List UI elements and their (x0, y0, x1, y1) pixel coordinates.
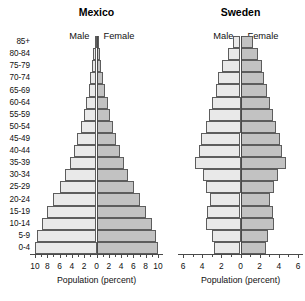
x-axis-minor-tick (212, 254, 213, 257)
x-axis-tick-label: 4 (70, 261, 75, 271)
x-axis-tick (109, 254, 110, 258)
x-axis-tick-label: 6 (57, 261, 62, 271)
bar-female (97, 84, 106, 96)
bar-female (97, 145, 120, 157)
x-axis-minor-tick (152, 254, 153, 257)
bar-female (241, 181, 275, 193)
bar-female (97, 242, 159, 254)
x-axis-tick (84, 254, 85, 258)
center-axis-line (241, 36, 242, 254)
x-axis-tick (146, 254, 147, 258)
x-axis-tick-label: 4 (276, 261, 281, 271)
age-group-label: 10-14 (10, 220, 30, 228)
age-group-label: 75-79 (10, 62, 30, 70)
x-axis-tick (241, 254, 242, 258)
bar-male (89, 84, 97, 96)
x-axis-minor-tick (288, 254, 289, 257)
bar-female (97, 157, 124, 169)
bar-male (206, 121, 241, 133)
age-group-label: 70-74 (10, 74, 30, 82)
bar-female (241, 109, 274, 121)
x-axis-tick-label: 6 (296, 261, 301, 271)
x-axis-tick-label: 6 (181, 261, 186, 271)
age-group-label: 45-49 (10, 135, 30, 143)
x-axis-tick (72, 254, 73, 258)
x-axis-tick-label: 2 (82, 261, 87, 271)
age-group-label: 50-54 (10, 123, 30, 131)
bar-female (97, 218, 152, 230)
x-axis-minor-tick (269, 254, 270, 257)
age-group-label: 35-39 (10, 159, 30, 167)
age-group-label: 65-69 (10, 87, 30, 95)
x-axis-minor-tick (231, 254, 232, 257)
age-group-label: 60-64 (10, 99, 30, 107)
x-axis-tick (158, 254, 159, 258)
bar-female (241, 242, 267, 254)
x-axis-tick-label: 10 (30, 261, 39, 271)
bar-male (206, 218, 241, 230)
bar-female (241, 133, 280, 145)
bar-female (97, 109, 111, 121)
bar-female (241, 121, 276, 133)
bar-female (241, 84, 268, 96)
age-group-label: 85+ (16, 38, 30, 46)
bar-male (74, 145, 97, 157)
bar-female (97, 206, 147, 218)
x-axis-minor-tick (66, 254, 67, 257)
x-axis-tick-label: 0 (238, 261, 243, 271)
bar-male (209, 109, 241, 121)
bar-female (97, 72, 104, 84)
bar-female (241, 193, 271, 205)
bar-female (97, 230, 157, 242)
age-group-label: 40-44 (10, 147, 30, 155)
bar-female (241, 230, 269, 242)
x-axis-tick (260, 254, 261, 258)
bar-female (241, 218, 275, 230)
bar-male (81, 121, 97, 133)
x-axis-title-mexico: Population (percent) (30, 275, 163, 285)
x-axis-tick-label: 6 (131, 261, 136, 271)
population-pyramid-figure: 85+80-8475-7970-7465-6960-6455-5950-5445… (0, 0, 305, 301)
bar-male (212, 97, 241, 109)
age-group-label: 15-19 (10, 208, 30, 216)
x-axis-minor-tick (53, 254, 54, 257)
x-axis-minor-tick (250, 254, 251, 257)
bar-female (241, 169, 278, 181)
bar-male (218, 72, 240, 84)
bar-male (222, 60, 240, 72)
x-axis-minor-tick (140, 254, 141, 257)
x-axis-tick (121, 254, 122, 258)
age-group-label: 0-4 (18, 244, 30, 252)
x-axis-tick-label: 8 (45, 261, 50, 271)
bar-male (228, 48, 240, 60)
bar-female (97, 133, 117, 145)
x-axis-minor-tick (193, 254, 194, 257)
chart-title-mexico: Mexico (30, 6, 163, 18)
bar-female (241, 60, 262, 72)
bar-male (53, 193, 96, 205)
age-group-label: 5-9 (18, 232, 30, 240)
bar-female (241, 36, 253, 48)
x-axis-tick-label: 0 (94, 261, 99, 271)
age-group-axis: 85+80-8475-7970-7465-6960-6455-5950-5445… (2, 36, 30, 254)
bar-male (35, 242, 97, 254)
bar-male (201, 133, 240, 145)
center-axis-line (97, 36, 98, 254)
x-axis-tick (35, 254, 36, 258)
pyramid-panel-mexico: Mexico Male Female Population (percent) … (30, 0, 163, 301)
bar-female (241, 206, 274, 218)
bar-male (207, 206, 241, 218)
x-axis-minor-tick (78, 254, 79, 257)
bar-female (241, 145, 282, 157)
bar-female (97, 181, 135, 193)
bar-female (97, 193, 141, 205)
x-axis-tick (279, 254, 280, 258)
pyramid-panel-sweden: Sweden Male Female Population (percent) … (178, 0, 303, 301)
x-axis-tick (47, 254, 48, 258)
bar-male (199, 145, 240, 157)
bar-male (77, 133, 96, 145)
x-axis-minor-tick (103, 254, 104, 257)
plot-area-mexico (30, 36, 163, 254)
x-axis-tick-label: 4 (200, 261, 205, 271)
x-axis-tick (202, 254, 203, 258)
